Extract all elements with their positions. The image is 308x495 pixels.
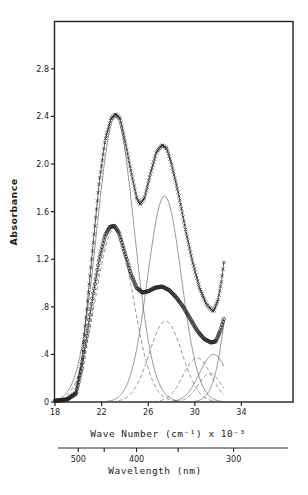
component-band xyxy=(55,228,180,401)
y-axis: 0.4.81.21.62.02.42.8 xyxy=(36,65,55,407)
wavelength-tick-label: 400 xyxy=(129,455,144,464)
secondary-x-axis-title: Wavelength (nm) xyxy=(108,465,201,476)
y-tick-label: 2.0 xyxy=(36,160,49,169)
y-tick-label: 0 xyxy=(44,398,49,407)
component-bands xyxy=(55,116,224,401)
y-axis-title: Absorbance xyxy=(8,178,19,245)
x-axis-title: Wave Number (cm⁻¹) x 10⁻³ xyxy=(90,428,246,439)
component-band xyxy=(55,116,183,401)
y-tick-label: .4 xyxy=(41,350,49,359)
x-tick-label: 30 xyxy=(190,408,200,417)
y-tick-label: 2.8 xyxy=(36,65,49,74)
x-tick-label: 22 xyxy=(97,408,107,417)
wavelength-tick-label: 300 xyxy=(226,455,241,464)
component-band xyxy=(170,354,224,401)
secondary-x-axis: 500400300 xyxy=(58,448,288,464)
wavelength-tick-label: 500 xyxy=(71,455,86,464)
x-axis: 1822263034 xyxy=(50,402,247,417)
y-tick-label: 1.2 xyxy=(36,255,49,264)
component-band xyxy=(105,196,224,402)
plot-frame xyxy=(55,22,294,403)
chart: 0.4.81.21.62.02.42.8 1822263034 Absorban… xyxy=(0,0,308,495)
y-tick-label: 2.4 xyxy=(36,112,49,121)
x-tick-label: 34 xyxy=(236,408,246,417)
component-band xyxy=(112,321,219,402)
x-tick-label: 26 xyxy=(143,408,153,417)
y-tick-label: .8 xyxy=(41,303,49,312)
component-band xyxy=(154,358,224,402)
y-tick-label: 1.6 xyxy=(36,208,49,217)
x-tick-label: 18 xyxy=(50,408,60,417)
